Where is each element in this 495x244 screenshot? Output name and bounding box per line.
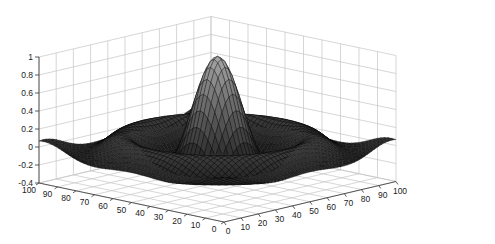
x-tick-mark [293,206,295,209]
y-tick-label: 80 [61,193,71,203]
x-tick-mark [224,222,226,225]
y-tick-label: 10 [191,220,201,230]
z-tick-label: -0.2 [18,160,33,170]
x-tick-mark [276,210,278,213]
x-tick-label: 80 [361,194,371,204]
x-tick-mark [379,186,381,189]
y-tick-label: 30 [154,212,164,222]
x-tick-label: 30 [275,214,285,224]
z-tick-label: -0.4 [18,178,33,188]
z-tick-label: 0.2 [21,124,33,134]
x-tick-label: 60 [326,202,336,212]
x-tick-label: 50 [309,206,319,216]
surface-layer [39,56,396,185]
y-tick-label: 50 [117,205,127,215]
y-tick-mark [147,206,150,208]
y-tick-mark [166,210,169,212]
x-tick-label: 10 [240,222,250,232]
y-tick-label: 20 [172,216,182,226]
y-tick-mark [184,214,187,216]
y-tick-label: 0 [212,224,217,234]
x-tick-mark [310,202,312,205]
x-tick-label: 90 [378,190,388,200]
z-tick-label: 0.8 [21,70,33,80]
x-tick-label: 0 [226,226,231,236]
z-tick-label: 1 [28,52,33,62]
y-tick-label: 90 [43,189,53,199]
z-tick-label: 0.4 [21,106,33,116]
surface-plot: 0102030405060708090100010203040506070809… [0,0,495,244]
x-tick-mark [396,182,398,185]
x-tick-mark [327,198,329,201]
y-tick-label: 60 [98,201,108,211]
x-tick-label: 70 [344,198,354,208]
z-tick-label: 0.6 [21,88,33,98]
x-tick-label: 100 [393,186,407,196]
y-tick-label: 40 [135,208,145,218]
y-tick-label: 70 [80,197,90,207]
x-tick-mark [241,218,243,221]
y-tick-mark [55,187,58,189]
y-tick-mark [73,191,76,193]
y-tick-mark [110,199,113,201]
x-tick-mark [344,194,346,197]
y-tick-mark [203,218,206,220]
x-tick-label: 20 [258,218,268,228]
y-tick-mark [92,195,95,197]
z-tick-label: 0 [28,142,33,152]
x-tick-mark [362,190,364,193]
y-tick-mark [221,222,224,224]
y-tick-mark [129,203,132,205]
x-tick-mark [258,214,260,217]
x-tick-label: 40 [292,210,302,220]
